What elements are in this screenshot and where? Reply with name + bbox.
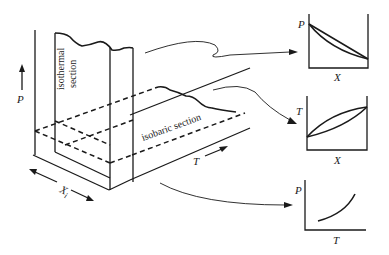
p-axis-label: P [16, 93, 24, 105]
isobaric-cross-dashed [55, 121, 110, 145]
block-bottom-front-edge [109, 180, 130, 190]
phase-block: isothermal section isobaric section P T … [16, 30, 250, 201]
panel-p-t-ylabel: P [294, 184, 302, 196]
isothermal-label-line2: section [67, 60, 78, 88]
p-axis-arrow-head-icon [19, 64, 25, 72]
arrow-to-pt-head-icon [284, 202, 293, 208]
xi-axis-arrow-left [35, 172, 57, 182]
arrow-to-px [145, 41, 290, 57]
t-axis-label: T [193, 155, 200, 167]
panel-p-t: P T [294, 180, 366, 246]
panel-p-t-curve [318, 194, 355, 221]
panel-t-x-lower-curve [307, 107, 367, 137]
panel-p-x-ylabel: P [297, 18, 305, 30]
panel-p-x: P X [297, 14, 368, 83]
isobaric-label: isobaric section [140, 111, 202, 143]
panel-t-x: T X [296, 96, 367, 166]
isobaric-cross-dashed-2 [65, 120, 133, 145]
isothermal-section-plane [55, 33, 133, 190]
xi-axis-arrow-right-head-icon [86, 195, 94, 201]
isothermal-bottom-edge [55, 152, 110, 178]
isobaric-front-dashed [110, 155, 132, 163]
isothermal-wavy-top [55, 33, 133, 50]
panel-p-x-xlabel: X [333, 71, 342, 83]
t-axis-arrow-head-icon [219, 146, 228, 152]
panel-t-x-frame [307, 96, 367, 150]
panel-t-x-xlabel: X [333, 154, 342, 166]
xi-axis-arrow-right [71, 190, 88, 198]
block-mid-edge [130, 68, 250, 115]
panel-p-t-axes [305, 180, 366, 230]
phase-diagram: isothermal section isobaric section P T … [0, 0, 389, 255]
arrow-to-tx-head-icon [287, 117, 297, 124]
xi-axis-label: Xi [56, 183, 71, 201]
isothermal-label-line1: isothermal [55, 48, 66, 90]
panel-p-t-xlabel: T [333, 234, 340, 246]
isobaric-back-dashed [35, 87, 158, 131]
xi-axis-arrow-left-head-icon [29, 169, 37, 175]
panel-t-x-upper-curve [307, 107, 367, 137]
arrow-to-tx [213, 86, 290, 120]
panel-t-x-ylabel: T [296, 105, 303, 117]
arrow-to-px-head-icon [289, 49, 298, 55]
t-axis-arrow-line [205, 149, 222, 156]
panel-p-x-upper-curve [309, 24, 368, 59]
arrow-to-pt [160, 183, 285, 205]
isobaric-section-plane [35, 87, 245, 163]
isobaric-left-dashed [35, 131, 110, 163]
